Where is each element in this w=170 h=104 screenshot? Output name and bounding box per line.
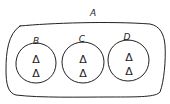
set-c-element-2: Δ xyxy=(79,67,87,80)
set-a-label: A xyxy=(89,8,96,18)
set-c-label: C xyxy=(79,34,86,44)
set-b-label: B xyxy=(33,36,39,46)
inner-set-d: D Δ Δ xyxy=(108,32,149,81)
inner-set-b: B Δ Δ xyxy=(16,36,56,83)
set-c-element-1: Δ xyxy=(79,53,87,66)
set-b-element-2: Δ xyxy=(32,67,40,80)
set-d-element-1: Δ xyxy=(125,51,133,64)
set-d-label: D xyxy=(124,32,131,42)
set-diagram: A B Δ Δ C Δ Δ D Δ Δ xyxy=(0,0,170,104)
set-b-element-1: Δ xyxy=(32,53,40,66)
inner-set-c: C Δ Δ xyxy=(62,34,104,83)
set-d-element-2: Δ xyxy=(125,65,133,78)
